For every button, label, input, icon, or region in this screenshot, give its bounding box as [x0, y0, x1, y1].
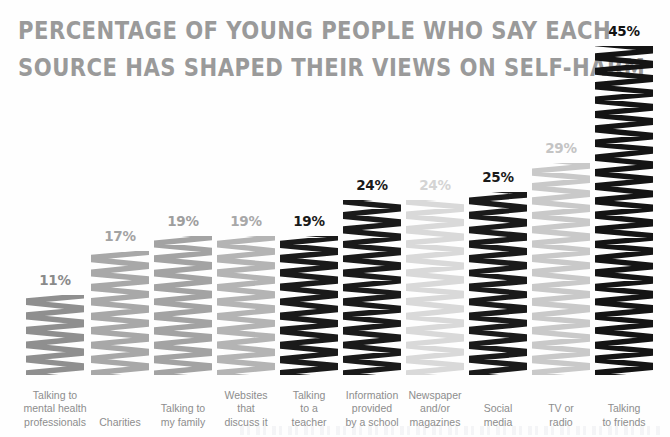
bar-group: 11% — [26, 295, 84, 375]
bar — [280, 236, 338, 375]
bar-group: 29% — [532, 163, 590, 375]
plot-area: 11%Talking to mental health professional… — [0, 0, 670, 437]
category-label: Talking to mental health professionals — [20, 389, 90, 430]
bar — [469, 192, 527, 375]
category-label: Information provided by a school — [337, 389, 407, 430]
bars-layer: 11%Talking to mental health professional… — [0, 0, 670, 437]
category-label: Talking to my family — [148, 402, 218, 429]
bar-value-label: 25% — [469, 169, 527, 185]
bar — [26, 295, 84, 375]
bar-group: 19% — [280, 236, 338, 375]
category-label: Websites that discuss it — [211, 389, 281, 430]
chart-root: Percentage of young people who say each … — [0, 0, 670, 437]
bar-value-label: 19% — [154, 213, 212, 229]
bar — [91, 251, 149, 375]
bar-group: 19% — [154, 236, 212, 375]
bar-group: 19% — [217, 236, 275, 375]
bar-group: 24% — [343, 200, 401, 375]
bar — [406, 200, 464, 375]
bar-value-label: 17% — [91, 228, 149, 244]
bar-value-label: 11% — [26, 272, 84, 288]
bar-value-label: 24% — [406, 177, 464, 193]
bar — [343, 200, 401, 375]
bar-value-label: 45% — [595, 23, 653, 39]
credit-strip — [240, 426, 660, 435]
bar-group: 45% — [595, 46, 653, 375]
bar-value-label: 19% — [280, 213, 338, 229]
bar-group: 17% — [91, 251, 149, 375]
category-label: Social media — [463, 402, 533, 429]
bar-value-label: 29% — [532, 140, 590, 156]
category-label: Newspaper and/or magazines — [400, 389, 470, 430]
bar — [595, 46, 653, 375]
category-label: Charities — [85, 416, 155, 430]
bar-value-label: 24% — [343, 177, 401, 193]
bar-group: 25% — [469, 192, 527, 375]
bar — [154, 236, 212, 375]
category-label: Talking to a teacher — [274, 389, 344, 430]
category-label: TV or radio — [526, 402, 596, 429]
category-label: Talking to friends — [589, 402, 659, 429]
bar — [532, 163, 590, 375]
bar — [217, 236, 275, 375]
bar-value-label: 19% — [217, 213, 275, 229]
bar-group: 24% — [406, 200, 464, 375]
